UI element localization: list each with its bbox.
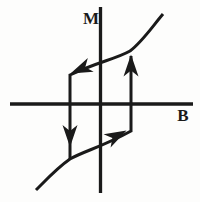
lower-branch-and-right-side-curve xyxy=(36,56,131,190)
b-axis-label: B xyxy=(177,106,188,125)
m-axis-label: M xyxy=(83,9,99,28)
diagram-canvas: M B xyxy=(0,0,200,202)
hysteresis-loop-figure: M B xyxy=(0,0,200,202)
